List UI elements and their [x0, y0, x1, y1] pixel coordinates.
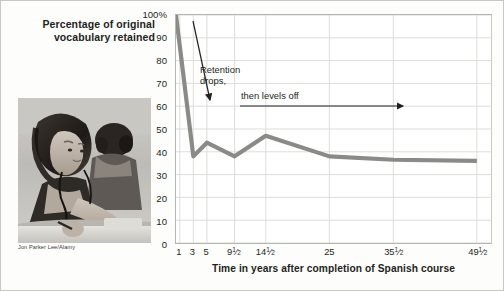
- annotation-levels-off: then levels off: [241, 90, 299, 101]
- x-tick-25: 25: [324, 246, 334, 257]
- chart-svg: [176, 15, 491, 243]
- y-tick-70: 70: [156, 78, 167, 89]
- y-tick-100: 100%: [142, 9, 167, 20]
- y-tick-20: 20: [156, 193, 167, 204]
- x-tick-1: 1: [176, 246, 181, 257]
- x-tick-3: 3: [190, 246, 195, 257]
- y-tick-0: 0: [162, 239, 167, 250]
- photo-credit-caption: Jon Parker Lee/Alamy: [18, 244, 75, 250]
- y-tick-10: 10: [156, 216, 167, 227]
- y-tick-60: 60: [156, 101, 167, 112]
- x-tick-9-half: 91⁄2: [227, 246, 241, 257]
- y-tick-40: 40: [156, 147, 167, 158]
- x-tick-49-half: 491⁄2: [468, 246, 487, 257]
- annotation-retention-drops-line2: drops,: [200, 75, 240, 86]
- figure-forgetting-curve: Percentage of original vocabulary retain…: [0, 0, 504, 291]
- retention-data-line: [176, 15, 477, 161]
- x-tick-5: 5: [203, 246, 208, 257]
- x-tick-14-half: 141⁄2: [256, 246, 275, 257]
- y-tick-30: 30: [156, 170, 167, 181]
- x-axis-title: Time in years after completion of Spanis…: [175, 263, 492, 274]
- y-tick-80: 80: [156, 55, 167, 66]
- y-tick-50: 50: [156, 124, 167, 135]
- horizontal-gridlines: [176, 15, 491, 243]
- annotation-retention-drops: Retention drops,: [200, 64, 240, 86]
- y-axis-tick-labels: 100% 90 80 70 60 50 40 30 20 10 0: [127, 14, 171, 244]
- y-tick-90: 90: [156, 32, 167, 43]
- x-tick-35-half: 351⁄2: [384, 246, 403, 257]
- x-axis-tick-labels: 13591⁄2141⁄225351⁄2491⁄2: [175, 246, 492, 262]
- annotation-retention-drops-line1: Retention: [200, 64, 240, 75]
- chart-plot-area: [175, 14, 492, 244]
